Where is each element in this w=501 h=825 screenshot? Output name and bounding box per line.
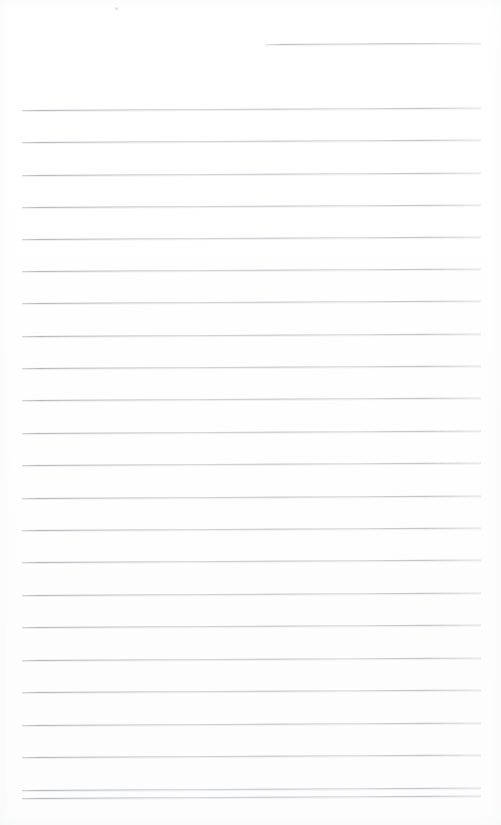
ruled-line — [22, 365, 481, 369]
notepad-page — [0, 0, 501, 825]
ruled-line — [22, 795, 481, 799]
ruled-line — [22, 754, 481, 758]
ruled-line — [22, 236, 481, 240]
ruled-line — [22, 527, 481, 531]
ruled-lines-layer — [0, 0, 501, 825]
ruled-line — [22, 300, 481, 304]
ruled-line — [22, 657, 481, 661]
scan-speck — [115, 7, 118, 10]
ruled-line — [22, 139, 481, 143]
ruled-line — [22, 430, 481, 434]
ruled-line — [22, 495, 481, 499]
ruled-line — [22, 462, 481, 466]
ruled-line — [22, 333, 481, 337]
ruled-line — [22, 397, 481, 401]
ruled-line — [22, 204, 481, 208]
ruled-line — [22, 624, 481, 628]
ruled-line — [22, 689, 481, 693]
ruled-line — [22, 107, 481, 111]
ruled-line — [22, 722, 481, 726]
ruled-line — [22, 592, 481, 596]
ruled-line — [22, 268, 481, 272]
ruled-line — [265, 43, 481, 45]
ruled-line — [22, 559, 481, 563]
ruled-line — [22, 172, 481, 176]
ruled-line — [22, 787, 481, 791]
